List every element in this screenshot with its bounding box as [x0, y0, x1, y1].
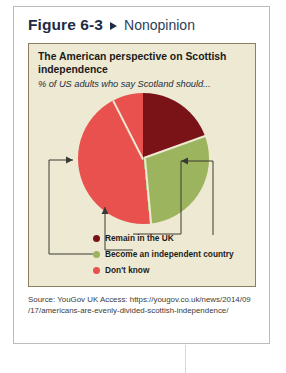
source-line-2: /17/americans-are-evenly-divided-scottis…	[28, 306, 228, 315]
figure-caption: Nonopinion	[124, 17, 195, 33]
figure-card: Figure 6-3 Nonopinion The American persp…	[13, 6, 270, 344]
legend-item-label: Remain in the UK	[105, 233, 174, 243]
chart-subtitle: % of US adults who say Scotland should..…	[38, 79, 250, 89]
legend-item-label: Become an independent country	[105, 249, 234, 259]
source-line-1: Source: YouGov UK Access: https://yougov…	[28, 295, 251, 304]
chart-title: The American perspective on Scottish ind…	[38, 51, 244, 76]
legend-item-dont-know: Don't know	[93, 262, 253, 278]
page-gutter-rule	[185, 345, 186, 373]
legend-swatch-icon	[93, 267, 100, 274]
chart-panel: The American perspective on Scottish ind…	[28, 43, 256, 287]
legend-item-remain: Remain in the UK	[93, 230, 253, 246]
legend-swatch-icon	[93, 235, 100, 242]
triangle-right-icon	[110, 22, 117, 30]
legend-item-label: Don't know	[105, 265, 149, 275]
legend: Remain in the UK Become an independent c…	[93, 230, 253, 278]
pie-chart	[78, 93, 209, 224]
legend-item-independent: Become an independent country	[93, 246, 253, 262]
figure-header: Figure 6-3 Nonopinion	[28, 16, 195, 34]
arrowhead-right-icon	[66, 157, 73, 164]
source-note: Source: YouGov UK Access: https://yougov…	[28, 294, 260, 317]
figure-number: Figure 6-3	[28, 16, 103, 34]
legend-swatch-icon	[93, 251, 100, 258]
